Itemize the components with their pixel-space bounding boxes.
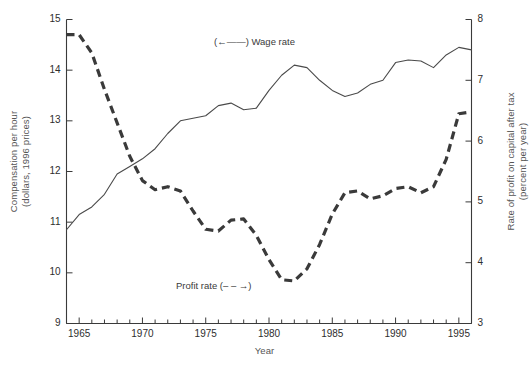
chart-figure: Compensation per hour (dollars, 1996 pri… <box>0 0 529 370</box>
legend-profit-rate: Profit rate (– – →) <box>176 280 252 291</box>
y-tick-label-right: 6 <box>478 135 508 146</box>
y-tick-label-right: 5 <box>478 195 508 206</box>
y-tick-label-right: 4 <box>478 256 508 267</box>
x-tick-label: 1985 <box>312 328 352 339</box>
y-tick-label-left: 15 <box>31 13 61 24</box>
y-axis-left-title: Compensation per hour (dollars, 1996 pri… <box>8 67 31 257</box>
x-tick-label: 1970 <box>122 328 162 339</box>
chart-plot-area <box>0 0 529 370</box>
x-tick-label: 1995 <box>439 328 479 339</box>
series-line-wage-rate <box>67 47 472 229</box>
y-tick-label-right: 7 <box>478 74 508 85</box>
y-tick-label-left: 12 <box>31 165 61 176</box>
x-axis-title: Year <box>0 345 529 357</box>
y-tick-label-left: 11 <box>31 216 61 227</box>
y-axis-left-title-line1: Compensation per hour <box>8 111 19 212</box>
y-axis-right-title-line1: Rate of profit on capital after tax <box>505 92 516 230</box>
x-tick-label: 1975 <box>186 328 226 339</box>
y-tick-label-left: 10 <box>31 266 61 277</box>
x-tick-label: 1990 <box>376 328 416 339</box>
y-axis-left-title-line2: (dollars, 1996 prices) <box>19 116 30 207</box>
y-tick-label-right: 3 <box>478 317 508 328</box>
x-tick-label: 1980 <box>249 328 289 339</box>
x-tick-label: 1965 <box>59 328 99 339</box>
y-tick-label-left: 14 <box>31 64 61 75</box>
y-axis-right-title-line2: (percent per year) <box>516 123 527 200</box>
legend-wage-rate: (←——) Wage rate <box>214 36 295 47</box>
series-line-profit-rate <box>67 35 472 281</box>
y-tick-label-left: 13 <box>31 114 61 125</box>
y-tick-label-right: 8 <box>478 13 508 24</box>
y-axis-right-title: Rate of profit on capital after tax (per… <box>505 67 528 257</box>
y-tick-label-left: 9 <box>31 317 61 328</box>
